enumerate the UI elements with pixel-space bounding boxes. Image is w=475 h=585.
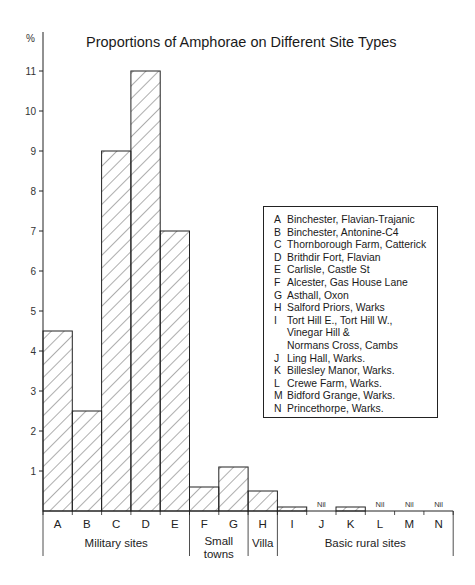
legend-label: Thornborough Farm, Catterick — [287, 239, 426, 252]
y-tick-label: 8 — [30, 186, 36, 197]
legend-item: DBrithdir Fort, Flavian — [274, 252, 437, 265]
x-tick-label: L — [377, 518, 384, 530]
legend-key: A — [274, 214, 287, 227]
x-tick-label: K — [347, 518, 355, 530]
nil-label: Nil — [434, 500, 443, 509]
x-tick-label: D — [141, 518, 149, 530]
legend-key: N — [274, 403, 287, 416]
group-label: Villa — [252, 537, 274, 549]
legend-key: B — [274, 227, 287, 240]
legend-key: L — [274, 378, 287, 391]
legend-label: Princethorpe, Warks. — [287, 403, 384, 416]
x-tick-label: A — [54, 518, 62, 530]
legend-key: M — [274, 390, 287, 403]
group-label: Basic rural sites — [325, 537, 406, 549]
bar-G — [219, 467, 248, 511]
x-tick-label: E — [171, 518, 179, 530]
legend-label: Asthall, Oxon — [287, 290, 349, 303]
legend-key: C — [274, 239, 287, 252]
bar-F — [190, 487, 219, 511]
legend-item: ABinchester, Flavian-Trajanic — [274, 214, 437, 227]
group-label: Military sites — [85, 537, 149, 549]
legend-label: Crewe Farm, Warks. — [287, 378, 382, 391]
legend-item: JLing Hall, Warks. — [274, 353, 437, 366]
bar-K — [336, 507, 365, 511]
legend-key: D — [274, 252, 287, 265]
x-tick-label: N — [434, 518, 442, 530]
legend-item: GAsthall, Oxon — [274, 290, 437, 303]
legend-label: Billesley Manor, Warks. — [287, 365, 395, 378]
nil-label: Nil — [376, 500, 385, 509]
y-tick-label: 3 — [30, 386, 36, 397]
legend-item: KBillesley Manor, Warks. — [274, 365, 437, 378]
legend-label: Bidford Grange, Warks. — [287, 390, 395, 403]
y-tick-label: 9 — [30, 146, 36, 157]
y-tick-label: 7 — [30, 226, 36, 237]
x-tick-label: M — [404, 518, 414, 530]
x-tick-label: F — [201, 518, 208, 530]
bar-I — [277, 507, 306, 511]
legend-item: LCrewe Farm, Warks. — [274, 378, 437, 391]
legend-item: HSalford Priors, Warks — [274, 302, 437, 315]
legend-item: ITort Hill E., Tort Hill W., Vinegar Hil… — [274, 315, 437, 353]
legend-label: Binchester, Flavian-Trajanic — [287, 214, 415, 227]
x-tick-label: G — [229, 518, 238, 530]
bar-C — [102, 151, 131, 511]
bar-H — [248, 491, 277, 511]
x-axis: ABCDEFGHIJKLMNMilitary sitesSmalltownsVi… — [43, 511, 453, 560]
legend-key: J — [274, 353, 287, 366]
legend-item: CThornborough Farm, Catterick — [274, 239, 437, 252]
bar-A — [43, 331, 72, 511]
bar-D — [131, 71, 160, 511]
y-axis: 1234567891011 — [25, 32, 43, 511]
group-label: towns — [204, 548, 234, 560]
legend-item: NPrincethorpe, Warks. — [274, 403, 437, 416]
legend-label: Brithdir Fort, Flavian — [287, 252, 381, 265]
x-tick-label: J — [318, 518, 324, 530]
y-axis-label: % — [26, 33, 35, 44]
legend-item: FAlcester, Gas House Lane — [274, 277, 437, 290]
y-tick-label: 10 — [25, 106, 37, 117]
x-tick-label: B — [83, 518, 91, 530]
legend: ABinchester, Flavian-TrajanicBBinchester… — [263, 206, 438, 418]
legend-item: BBinchester, Antonine-C4 — [274, 227, 437, 240]
y-tick-label: 2 — [30, 426, 36, 437]
legend-item: ECarlisle, Castle St — [274, 264, 437, 277]
legend-key: F — [274, 277, 287, 290]
legend-label: Salford Priors, Warks — [287, 302, 385, 315]
legend-key: G — [274, 290, 287, 303]
x-tick-label: I — [290, 518, 293, 530]
x-tick-label: H — [259, 518, 267, 530]
bar-B — [72, 411, 101, 511]
legend-key: I — [274, 315, 287, 353]
chart-title: Proportions of Amphorae on Different Sit… — [86, 34, 397, 50]
legend-key: K — [274, 365, 287, 378]
y-tick-label: 1 — [30, 466, 36, 477]
legend-key: H — [274, 302, 287, 315]
y-tick-label: 4 — [30, 346, 36, 357]
nil-label: Nil — [317, 500, 326, 509]
nil-label: Nil — [405, 500, 414, 509]
legend-item: MBidford Grange, Warks. — [274, 390, 437, 403]
y-tick-label: 5 — [30, 306, 36, 317]
legend-label: Tort Hill E., Tort Hill W., Vinegar Hill… — [287, 315, 398, 353]
legend-label: Carlisle, Castle St — [287, 264, 370, 277]
legend-label: Ling Hall, Warks. — [287, 353, 365, 366]
bar-E — [160, 231, 189, 511]
y-tick-label: 11 — [26, 66, 37, 77]
legend-label: Alcester, Gas House Lane — [287, 277, 408, 290]
y-tick-label: 6 — [30, 266, 36, 277]
legend-key: E — [274, 264, 287, 277]
legend-label: Binchester, Antonine-C4 — [287, 227, 398, 240]
x-tick-label: C — [112, 518, 120, 530]
group-label: Small — [204, 535, 233, 547]
